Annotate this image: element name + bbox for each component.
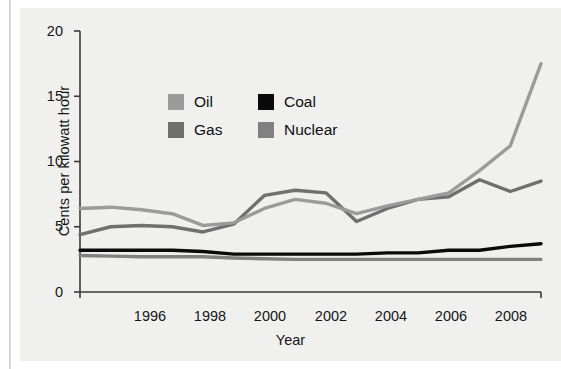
page-edge-artifact <box>9 0 11 369</box>
chart-figure: Cents per kilowatt hour Year 20 15 10 5 … <box>0 0 561 369</box>
plot-axes <box>20 8 561 361</box>
plot-panel: Cents per kilowatt hour Year 20 15 10 5 … <box>20 8 561 361</box>
